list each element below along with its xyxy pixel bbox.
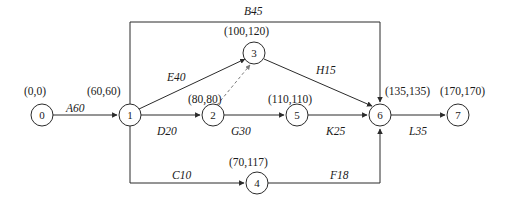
edge-A-label: A60: [66, 103, 85, 115]
edge-D-label: D20: [157, 126, 177, 138]
node-2-label: 2: [210, 109, 216, 121]
edge-H-label: H15: [316, 65, 336, 77]
network-diagram-canvas: 0 1 2 3 4 5 6 7 (0,0) (: [0, 0, 510, 209]
node-7[interactable]: 7: [447, 104, 469, 126]
node-3[interactable]: 3: [243, 42, 265, 64]
node-0[interactable]: 0: [31, 104, 53, 126]
edge-L-label: L35: [409, 126, 427, 138]
edge-G-label: G30: [231, 126, 251, 138]
edge-F-label: F18: [330, 170, 349, 182]
node-3-label: 3: [251, 47, 257, 59]
edge-E-label: E40: [167, 72, 186, 84]
node-0-label: 0: [39, 109, 45, 121]
edge-F-line: [268, 129, 380, 183]
node-6-coord-label: (135,135): [385, 86, 430, 98]
node-1[interactable]: 1: [119, 104, 141, 126]
node-5-coord-label: (110,110): [268, 94, 312, 106]
node-1-coord-label: (60,60): [87, 86, 121, 98]
node-5-label: 5: [294, 109, 300, 121]
node-1-label: 1: [127, 109, 133, 121]
node-4[interactable]: 4: [246, 172, 268, 194]
edge-B-label: B45: [244, 6, 263, 18]
node-6[interactable]: 6: [369, 104, 391, 126]
node-4-coord-label: (70,117): [229, 157, 268, 169]
node-2[interactable]: 2: [202, 104, 224, 126]
edge-C-label: C10: [172, 170, 191, 182]
node-7-coord-label: (170,170): [440, 86, 485, 98]
node-6-label: 6: [377, 109, 383, 121]
edge-K-label: K25: [326, 126, 345, 138]
node-3-coord-label: (100,120): [224, 26, 269, 38]
node-5[interactable]: 5: [286, 104, 308, 126]
node-7-label: 7: [455, 109, 461, 121]
node-0-coord-label: (0,0): [24, 86, 46, 98]
node-2-coord-label: (80,80): [188, 94, 222, 106]
node-4-label: 4: [254, 177, 260, 189]
